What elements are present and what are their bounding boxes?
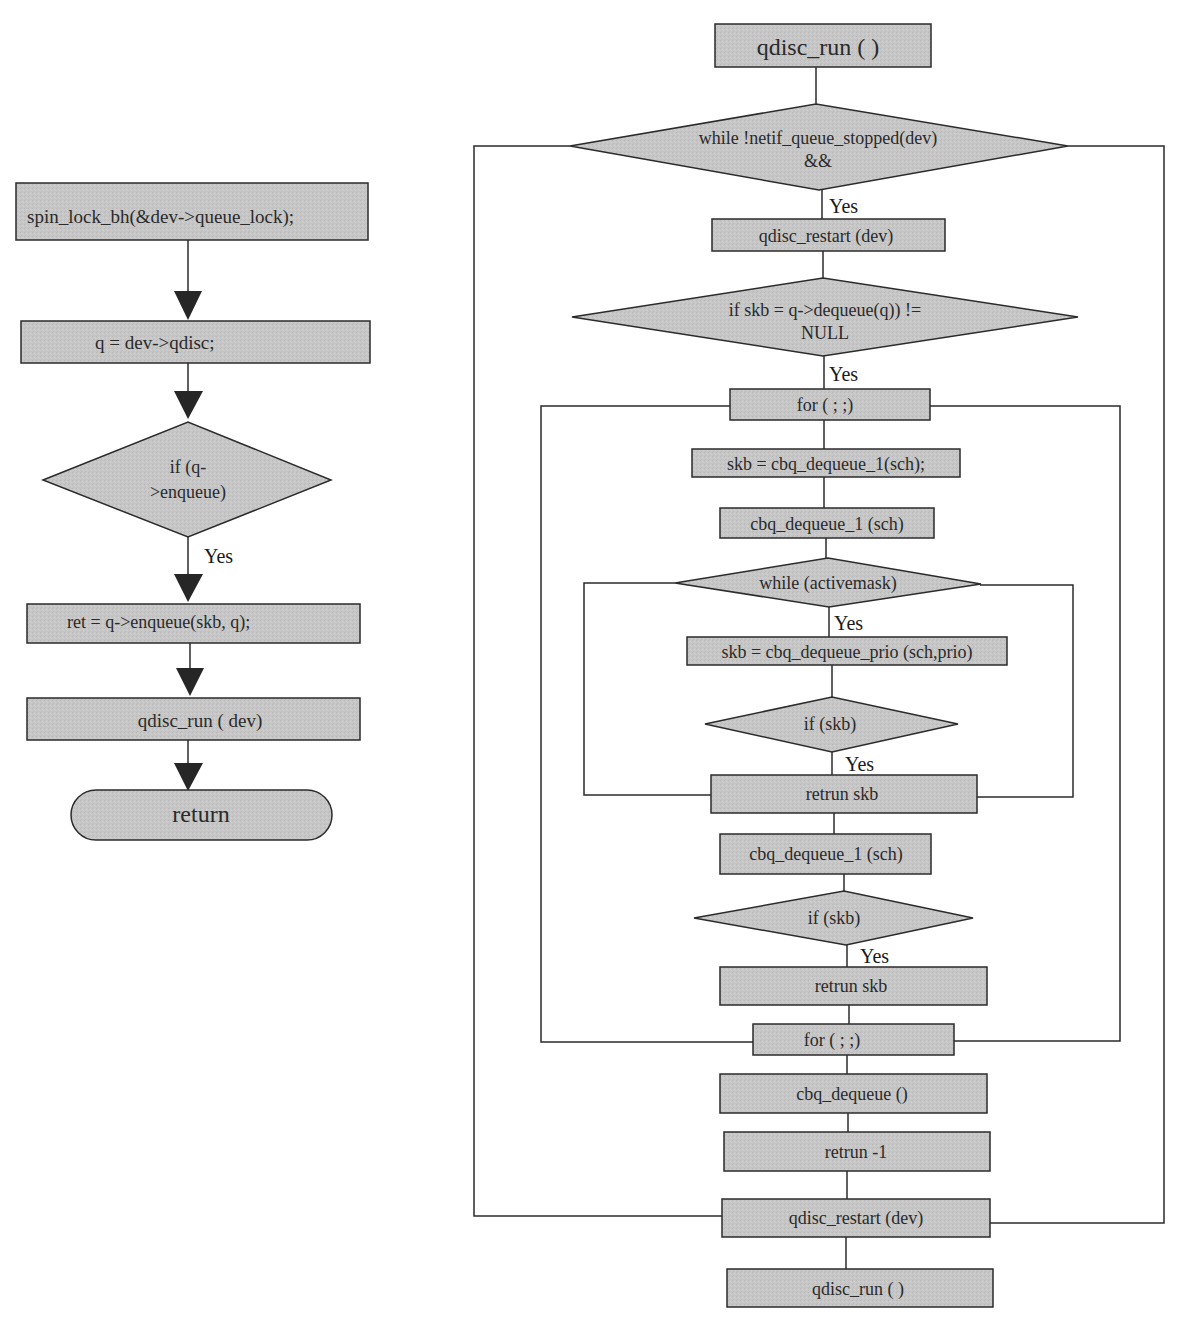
node-label: while !netif_queue_stopped(dev) bbox=[699, 128, 937, 149]
node-label: >enqueue) bbox=[150, 482, 226, 503]
flowchart-canvas: spin_lock_bh(&dev->queue_lock); q = dev-… bbox=[0, 0, 1185, 1328]
node-return-skb-2: retrun skb bbox=[720, 967, 987, 1005]
node-while-activemask: while (activemask) bbox=[675, 558, 981, 607]
node-enqueue-call: ret = q->enqueue(skb, q); bbox=[27, 604, 360, 643]
node-if-enqueue: if (q- >enqueue) bbox=[43, 422, 331, 537]
node-skb-dequeue-prio: skb = cbq_dequeue_prio (sch,prio) bbox=[687, 637, 1007, 665]
edge-label-yes: Yes bbox=[829, 363, 858, 385]
edge-label-yes: Yes bbox=[204, 545, 233, 567]
node-label: qdisc_run ( ) bbox=[812, 1279, 904, 1300]
edge-label-yes: Yes bbox=[860, 945, 889, 967]
node-label: if (q- bbox=[170, 457, 206, 478]
node-label: for ( ; ;) bbox=[804, 1030, 860, 1051]
node-label: qdisc_run ( dev) bbox=[138, 710, 263, 732]
node-label: cbq_dequeue_1 (sch) bbox=[749, 844, 902, 865]
node-assign-qdisc: q = dev->qdisc; bbox=[21, 321, 370, 363]
node-label: spin_lock_bh(&dev->queue_lock); bbox=[27, 206, 294, 228]
node-label: if (skb) bbox=[808, 908, 861, 929]
edge-label-yes: Yes bbox=[834, 612, 863, 634]
arrow-down-icon bbox=[174, 391, 203, 419]
node-label: ret = q->enqueue(skb, q); bbox=[67, 612, 250, 633]
node-label: cbq_dequeue_1 (sch) bbox=[750, 514, 903, 535]
node-for-loop-top: for ( ; ;) bbox=[730, 389, 930, 420]
node-qdisc-restart-1: qdisc_restart (dev) bbox=[712, 219, 945, 251]
node-if-skb-2: if (skb) bbox=[694, 891, 973, 945]
node-label: for ( ; ;) bbox=[797, 395, 853, 416]
node-label: qdisc_run ( ) bbox=[757, 34, 880, 60]
arrow-down-icon bbox=[174, 763, 203, 791]
node-spin-lock: spin_lock_bh(&dev->queue_lock); bbox=[16, 183, 368, 240]
right-flowchart: qdisc_run ( ) while !netif_queue_stopped… bbox=[474, 24, 1164, 1307]
node-label: NULL bbox=[801, 323, 849, 343]
loop-line-for-right bbox=[930, 406, 1120, 1041]
node-return: return bbox=[71, 790, 332, 840]
node-cbq-dequeue-1-b: cbq_dequeue_1 (sch) bbox=[720, 834, 931, 874]
node-cbq-dequeue: cbq_dequeue () bbox=[720, 1074, 987, 1113]
node-label: retrun skb bbox=[806, 784, 878, 804]
node-label: q = dev->qdisc; bbox=[95, 332, 215, 353]
node-qdisc-run-bottom: qdisc_run ( ) bbox=[727, 1269, 993, 1307]
edge-label-yes: Yes bbox=[829, 195, 858, 217]
node-label: skb = cbq_dequeue_1(sch); bbox=[727, 454, 925, 475]
node-while-netif: while !netif_queue_stopped(dev) && bbox=[570, 104, 1068, 190]
node-qdisc-run-dev: qdisc_run ( dev) bbox=[27, 698, 360, 740]
node-label: && bbox=[804, 151, 832, 171]
node-label: if skb = q->dequeue(q)) != bbox=[729, 300, 921, 321]
node-qdisc-restart-2: qdisc_restart (dev) bbox=[722, 1199, 990, 1237]
arrow-down-icon bbox=[174, 291, 202, 320]
node-label: qdisc_restart (dev) bbox=[789, 1208, 923, 1229]
node-label: if (skb) bbox=[804, 714, 857, 735]
arrow-down-icon bbox=[176, 668, 204, 696]
node-return-skb-1: retrun skb bbox=[711, 775, 977, 813]
node-label: retrun skb bbox=[815, 976, 887, 996]
node-return-minus-1: retrun -1 bbox=[724, 1132, 990, 1171]
node-label: while (activemask) bbox=[759, 573, 896, 594]
node-label: retrun -1 bbox=[825, 1142, 887, 1162]
node-label: return bbox=[172, 801, 229, 827]
edge-label-yes: Yes bbox=[845, 753, 874, 775]
node-qdisc-run-top: qdisc_run ( ) bbox=[715, 24, 931, 67]
arrow-down-icon bbox=[174, 574, 203, 602]
node-if-dequeue-null: if skb = q->dequeue(q)) != NULL bbox=[572, 278, 1078, 356]
node-label: skb = cbq_dequeue_prio (sch,prio) bbox=[721, 642, 972, 663]
loop-line-activemask-left bbox=[584, 583, 711, 795]
node-label: cbq_dequeue () bbox=[796, 1084, 907, 1105]
node-if-skb-1: if (skb) bbox=[705, 697, 958, 752]
left-flowchart: spin_lock_bh(&dev->queue_lock); q = dev-… bbox=[16, 183, 370, 840]
node-cbq-dequeue-1-a: cbq_dequeue_1 (sch) bbox=[720, 508, 934, 538]
loop-line-activemask-right bbox=[976, 585, 1073, 797]
node-label: qdisc_restart (dev) bbox=[759, 226, 893, 247]
node-for-loop-bottom: for ( ; ;) bbox=[753, 1024, 954, 1055]
node-skb-dequeue-1: skb = cbq_dequeue_1(sch); bbox=[692, 449, 960, 477]
